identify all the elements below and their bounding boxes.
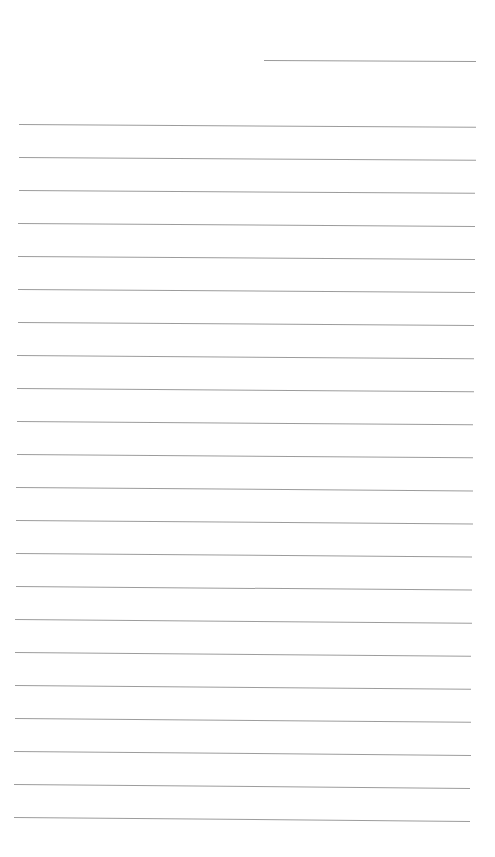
ruled-line	[17, 388, 474, 392]
ruled-line	[18, 289, 475, 293]
ruled-line	[16, 520, 473, 525]
ruled-line	[16, 553, 472, 558]
ruled-paper-page	[0, 0, 495, 857]
date-line	[264, 60, 476, 62]
ruled-line	[16, 586, 472, 591]
ruled-line	[17, 355, 474, 359]
ruled-line	[18, 223, 475, 227]
ruled-line	[14, 784, 470, 789]
ruled-line	[14, 817, 470, 822]
ruled-line	[15, 718, 471, 723]
ruled-line	[16, 487, 473, 491]
ruled-line	[15, 652, 471, 657]
ruled-line	[15, 619, 472, 624]
ruled-line	[19, 190, 475, 194]
ruled-line	[19, 157, 476, 161]
ruled-line	[14, 751, 471, 756]
ruled-line	[18, 256, 475, 260]
ruled-line	[17, 421, 473, 425]
ruled-line	[18, 322, 474, 326]
ruled-line	[15, 685, 471, 690]
ruled-line	[19, 124, 476, 128]
ruled-line	[17, 454, 473, 458]
